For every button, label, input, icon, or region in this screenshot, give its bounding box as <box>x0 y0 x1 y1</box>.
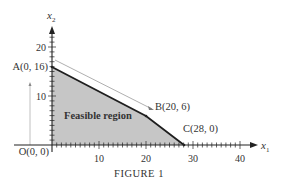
direction-guide-arrowhead-icon <box>148 106 154 110</box>
feasible-region-label: Feasible region <box>64 110 132 121</box>
y-tick-10: 10 <box>36 91 46 102</box>
point-a-label: A(0, 16) <box>12 61 48 73</box>
x2-axis-label: x2 <box>46 9 56 24</box>
x-tick-10: 10 <box>94 153 104 164</box>
x-tick-40: 40 <box>235 153 245 164</box>
x-tick-30: 30 <box>188 153 198 164</box>
vertex-a-marker <box>51 66 54 69</box>
point-c-label: C(28, 0) <box>183 123 219 135</box>
point-b-label: B(20, 6) <box>155 101 191 113</box>
figure-caption: FIGURE 1 <box>114 168 164 179</box>
x-tick-20: 20 <box>141 153 151 164</box>
x1-axis-label: x1 <box>260 139 270 154</box>
vertical-guide-arrowhead-icon <box>29 82 32 86</box>
x1-axis-arrowhead-icon <box>250 142 258 148</box>
point-o-label: O(0, 0) <box>19 146 50 158</box>
vertex-c-marker <box>183 144 186 147</box>
x2-axis-arrowhead-icon <box>49 26 55 34</box>
feasible-region-figure: 10 20 30 40 10 20 x1 x2 A(0, 16) B(20, 6… <box>0 0 287 179</box>
vertex-b-marker <box>145 115 148 118</box>
y-tick-20: 20 <box>36 42 46 53</box>
